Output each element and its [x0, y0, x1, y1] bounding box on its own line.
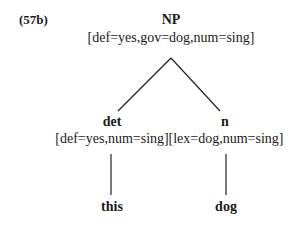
tree-edges: [0, 0, 299, 228]
n-node-features: [lex=dog,num=sing]: [169, 131, 284, 147]
det-node-features: [def=yes,num=sing]: [55, 131, 168, 147]
n-node-label: n: [221, 114, 229, 130]
edge-np-det: [118, 58, 171, 111]
leaf-word-this: this: [101, 199, 123, 215]
leaf-word-dog: dog: [215, 199, 237, 215]
det-node-label: det: [103, 114, 122, 130]
edge-np-n: [171, 58, 220, 111]
